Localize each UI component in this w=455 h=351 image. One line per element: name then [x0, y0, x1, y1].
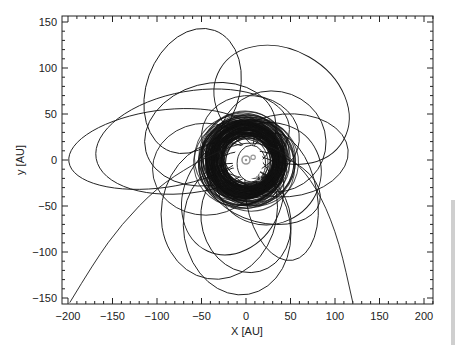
x-tick-label: −100 [145, 310, 170, 322]
side-scroll-strip [451, 200, 455, 345]
x-tick-labels: −200−150−100−50050100150200 [56, 310, 434, 322]
y-tick-label: 100 [39, 62, 57, 74]
x-tick-label: 50 [284, 310, 296, 322]
x-axis-title: X [AU] [231, 325, 263, 337]
y-tick-label: −150 [32, 292, 57, 304]
x-tick-label: 100 [326, 310, 344, 322]
x-tick-label: 200 [415, 310, 433, 322]
sun-center-dot [245, 159, 247, 161]
y-axis-title: y [AU] [14, 145, 26, 175]
x-tick-label: 150 [370, 310, 388, 322]
y-tick-label: −100 [32, 246, 57, 258]
orbit-plot: −200−150−100−50050100150200 −150−100−500… [0, 0, 455, 351]
y-tick-label: −50 [38, 200, 57, 212]
x-tick-label: −200 [56, 310, 81, 322]
x-tick-label: −150 [100, 310, 125, 322]
y-tick-label: 150 [39, 16, 57, 28]
y-tick-label: 0 [51, 154, 57, 166]
y-tick-label: 50 [45, 108, 57, 120]
x-tick-label: −50 [192, 310, 211, 322]
x-tick-label: 0 [243, 310, 249, 322]
